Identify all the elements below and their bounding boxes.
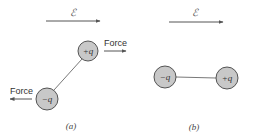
panel-a: ℰ +q −q Force Force (a) xyxy=(10,7,127,131)
field-label-a: ℰ xyxy=(70,7,77,18)
negative-charge-label-a: −q xyxy=(42,94,53,104)
negative-charge-label-b: −q xyxy=(160,72,171,82)
dipole-rod-b xyxy=(176,77,216,78)
dipole-diagram: ℰ +q −q Force Force (a) ℰ −q +q (b) xyxy=(0,0,253,136)
field-label-b: ℰ xyxy=(192,7,199,18)
dipole-rod-a xyxy=(54,59,82,90)
force-label-left: Force xyxy=(10,86,33,96)
caption-b: (b) xyxy=(189,122,200,132)
caption-a: (a) xyxy=(66,121,77,131)
panel-b: ℰ −q +q (b) xyxy=(154,7,238,132)
force-label-right: Force xyxy=(104,38,127,48)
positive-charge-label-a: +q xyxy=(83,46,94,56)
positive-charge-label-b: +q xyxy=(222,73,233,83)
